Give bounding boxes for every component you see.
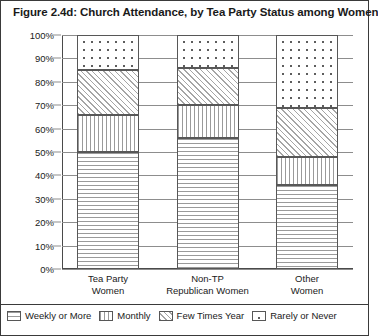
bar-segment-rarely-or-never[interactable] (77, 35, 139, 70)
bar-segment-weekly-or-more[interactable] (177, 138, 239, 269)
y-axis-tick-mark (52, 245, 61, 246)
bar-other-women[interactable] (276, 35, 338, 269)
bar-segment-weekly-or-more[interactable] (276, 185, 338, 269)
bar-tea-party-women[interactable] (77, 35, 139, 269)
y-axis-tick-label: 70% (0, 100, 54, 111)
bar-segment-monthly[interactable] (177, 105, 239, 138)
plot-area (62, 35, 353, 269)
bar-segment-monthly[interactable] (276, 157, 338, 185)
y-axis-tick-label: 90% (0, 53, 54, 64)
y-axis-tick-label: 100% (0, 30, 54, 41)
bar-segment-few-times-year[interactable] (77, 70, 139, 114)
bar-segment-few-times-year[interactable] (276, 108, 338, 157)
legend-swatch-icon (252, 311, 266, 321)
legend-label: Monthly (117, 310, 150, 321)
chart-legend: Weekly or MoreMonthlyFew Times YearRarel… (1, 304, 368, 326)
legend-label: Rarely or Never (270, 310, 337, 321)
y-axis-tick-label: 10% (0, 240, 54, 251)
legend-item-weekly-or-more[interactable]: Weekly or More (7, 310, 91, 321)
legend-swatch-icon (159, 311, 173, 321)
y-axis-tick-label: 40% (0, 170, 54, 181)
x-axis-label-line: Other (247, 273, 367, 285)
y-axis-tick-mark (52, 58, 61, 59)
bar-non-tp-republican-women[interactable] (177, 35, 239, 269)
y-axis-tick-mark (52, 81, 61, 82)
figure-title: Figure 2.4d: Church Attendance, by Tea P… (13, 6, 378, 18)
y-axis-tick-label: 20% (0, 217, 54, 228)
bar-segment-few-times-year[interactable] (177, 68, 239, 105)
y-axis-tick-mark (52, 128, 61, 129)
x-axis-label-line: Women (247, 285, 367, 297)
y-axis-tick-mark (52, 269, 61, 270)
legend-swatch-icon (7, 311, 21, 321)
y-axis-tick-label: 80% (0, 76, 54, 87)
x-axis-label: OtherWomen (247, 273, 367, 296)
y-axis-tick-mark (52, 175, 61, 176)
y-axis-tick-mark (52, 35, 61, 36)
legend-swatch-icon (99, 311, 113, 321)
bar-segment-weekly-or-more[interactable] (77, 152, 139, 269)
y-axis-tick-label: 50% (0, 147, 54, 158)
y-axis-tick-label: 30% (0, 193, 54, 204)
y-axis-tick-mark (52, 222, 61, 223)
y-axis-tick-mark (52, 152, 61, 153)
legend-item-monthly[interactable]: Monthly (99, 310, 150, 321)
legend-label: Few Times Year (177, 310, 245, 321)
y-axis-tick-mark (52, 198, 61, 199)
gridline (62, 269, 353, 270)
y-axis-tick-label: 60% (0, 123, 54, 134)
legend-item-rarely-or-never[interactable]: Rarely or Never (252, 310, 337, 321)
y-axis-tick-label: 0% (0, 264, 54, 275)
bar-segment-rarely-or-never[interactable] (276, 35, 338, 108)
y-axis-tick-mark (52, 105, 61, 106)
legend-item-few-times-year[interactable]: Few Times Year (159, 310, 245, 321)
bar-segment-monthly[interactable] (77, 115, 139, 152)
bar-segment-rarely-or-never[interactable] (177, 35, 239, 68)
legend-label: Weekly or More (25, 310, 91, 321)
